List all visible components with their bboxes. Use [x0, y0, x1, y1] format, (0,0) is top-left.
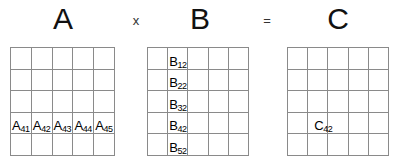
matrix-c-cell-2-2 — [308, 70, 328, 92]
matrix-a-cell-2-5 — [94, 70, 115, 92]
matrix-a-label-A42: A42 — [33, 119, 50, 132]
matrix-a-cell-5-5 — [94, 134, 115, 156]
matrix-a-cell-4-1: A41 — [11, 113, 32, 135]
matrix-b-cell-3-4 — [209, 91, 229, 113]
matrix-b-cell-4-4 — [209, 113, 229, 135]
matrix-c-cell-2-5 — [369, 70, 389, 92]
matrix-a-cell-4-3: A43 — [53, 113, 74, 135]
matrix-c-grid: C42 — [287, 47, 389, 156]
matrix-a-cell-3-1 — [11, 91, 32, 113]
matrix-a-title: A — [43, 4, 83, 34]
matrix-a-cell-2-3 — [53, 70, 74, 92]
matrix-b-cell-5-3 — [188, 134, 208, 156]
matrix-b-cell-3-2: B32 — [168, 91, 188, 113]
matrix-b-cell-5-4 — [209, 134, 229, 156]
matrix-b-cell-1-1 — [148, 48, 168, 70]
matrix-a-cell-3-4 — [73, 91, 94, 113]
matrix-a-grid: A41A42A43A44A45 — [10, 47, 115, 156]
matrix-a-label-A43: A43 — [54, 119, 71, 132]
matrix-c-cell-1-5 — [369, 48, 389, 70]
matrix-b-cell-1-2: B12 — [168, 48, 188, 70]
matrix-c-cell-4-5 — [369, 113, 389, 135]
matrix-c-cell-3-5 — [369, 91, 389, 113]
matrix-b-label-B42: B42 — [169, 119, 186, 132]
matrix-b-cell-2-3 — [188, 70, 208, 92]
matrix-b-cell-4-1 — [148, 113, 168, 135]
matrix-a-cell-3-5 — [94, 91, 115, 113]
matrix-a-cell-2-2 — [32, 70, 53, 92]
matrix-c-cell-5-1 — [288, 134, 308, 156]
matrix-a-label-A44: A44 — [74, 119, 91, 132]
matrix-a-cell-3-2 — [32, 91, 53, 113]
matrix-c-cell-3-3 — [328, 91, 348, 113]
matrix-a-cell-5-2 — [32, 134, 53, 156]
matrix-a-cell-5-1 — [11, 134, 32, 156]
matrix-b-title: B — [180, 4, 220, 34]
matrix-b-cell-4-5 — [229, 113, 249, 135]
matrix-b-cell-1-3 — [188, 48, 208, 70]
matrix-c-cell-2-3 — [328, 70, 348, 92]
matrix-c-cell-3-2 — [308, 91, 328, 113]
matrix-c-cell-4-1 — [288, 113, 308, 135]
matrix-b-cell-3-3 — [188, 91, 208, 113]
matrix-c-cell-1-1 — [288, 48, 308, 70]
equals-operator: = — [256, 14, 278, 27]
matrix-a-cell-1-4 — [73, 48, 94, 70]
matrix-c-cell-1-3 — [328, 48, 348, 70]
matrix-b-cell-3-5 — [229, 91, 249, 113]
matrix-a-cell-4-5: A45 — [94, 113, 115, 135]
matrix-c-cell-5-2 — [308, 134, 328, 156]
multiply-operator: x — [125, 14, 147, 27]
matrix-b-label-B12: B12 — [169, 55, 186, 68]
matrix-c-cell-1-4 — [349, 48, 369, 70]
matrix-a-cell-1-1 — [11, 48, 32, 70]
matrix-a-cell-3-3 — [53, 91, 74, 113]
matrix-b-cell-5-5 — [229, 134, 249, 156]
matrix-a-cell-1-3 — [53, 48, 74, 70]
matrix-a-cell-5-3 — [53, 134, 74, 156]
matrix-multiplication-diagram: A x B = C A41A42A43A44A45 B12B22B32B42B5… — [0, 0, 399, 163]
matrix-b-cell-5-1 — [148, 134, 168, 156]
matrix-b-cell-5-2: B52 — [168, 134, 188, 156]
matrix-c-cell-2-1 — [288, 70, 308, 92]
matrix-a-cell-1-5 — [94, 48, 115, 70]
matrix-c-cell-3-1 — [288, 91, 308, 113]
matrix-c-title: C — [318, 4, 358, 34]
matrix-b-cell-2-1 — [148, 70, 168, 92]
matrix-b-cell-2-2: B22 — [168, 70, 188, 92]
matrix-c-cell-4-4 — [349, 113, 369, 135]
matrix-b-cell-3-1 — [148, 91, 168, 113]
matrix-b-label-B52: B52 — [169, 141, 186, 154]
matrix-a-cell-4-2: A42 — [32, 113, 53, 135]
matrix-b-grid: B12B22B32B42B52 — [147, 47, 249, 156]
matrix-c-cell-1-2 — [308, 48, 328, 70]
matrix-b-cell-4-2: B42 — [168, 113, 188, 135]
matrix-a-cell-2-4 — [73, 70, 94, 92]
matrix-a-label-A45: A45 — [95, 119, 112, 132]
matrix-b-cell-2-5 — [229, 70, 249, 92]
matrix-b-cell-4-3 — [188, 113, 208, 135]
matrix-c-cell-4-2: C42 — [308, 113, 328, 135]
matrix-b-label-B22: B22 — [169, 76, 186, 89]
matrix-c-cell-5-4 — [349, 134, 369, 156]
matrix-c-cell-3-4 — [349, 91, 369, 113]
matrix-c-cell-5-3 — [328, 134, 348, 156]
matrix-c-cell-4-3 — [328, 113, 348, 135]
matrix-c-cell-5-5 — [369, 134, 389, 156]
matrix-a-label-A41: A41 — [12, 119, 29, 132]
matrix-b-cell-2-4 — [209, 70, 229, 92]
matrix-a-cell-5-4 — [73, 134, 94, 156]
matrix-b-cell-1-5 — [229, 48, 249, 70]
matrix-a-cell-2-1 — [11, 70, 32, 92]
matrix-b-label-B32: B32 — [169, 98, 186, 111]
matrix-c-cell-2-4 — [349, 70, 369, 92]
matrix-b-cell-1-4 — [209, 48, 229, 70]
matrix-a-cell-1-2 — [32, 48, 53, 70]
matrix-a-cell-4-4: A44 — [73, 113, 94, 135]
